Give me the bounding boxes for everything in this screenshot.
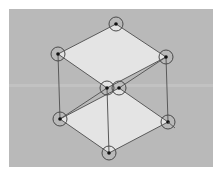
edge-right	[166, 57, 168, 122]
cube-diagram	[0, 0, 220, 175]
edge-left	[58, 54, 60, 119]
bottom-face	[60, 88, 168, 153]
top-face	[58, 24, 166, 88]
